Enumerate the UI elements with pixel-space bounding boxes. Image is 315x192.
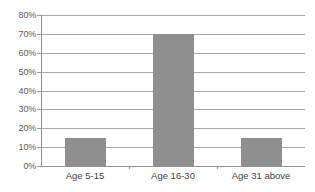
y-axis-tick-label: 60%: [0, 49, 36, 58]
bar: [153, 34, 194, 166]
x-axis-labels: Age 5-15Age 16-30Age 31 above: [41, 170, 305, 186]
x-axis-category-label: Age 31 above: [217, 170, 305, 182]
bar: [241, 138, 282, 166]
y-axis-tick-label: 30%: [0, 105, 36, 114]
y-axis-tick-label: 10%: [0, 143, 36, 152]
x-axis-separator-tick: [129, 166, 130, 169]
x-axis-category-label: Age 16-30: [129, 170, 217, 182]
x-axis-baseline: [41, 166, 305, 167]
y-axis-tick-label: 40%: [0, 87, 36, 96]
x-axis-category-label: Age 5-15: [41, 170, 129, 182]
x-axis-separator-tick: [217, 166, 218, 169]
y-axis-tick-label: 80%: [0, 11, 36, 20]
y-axis-tick-label: 20%: [0, 124, 36, 133]
y-axis-tick-label: 50%: [0, 68, 36, 77]
bar: [65, 138, 106, 166]
y-axis-labels: 0%10%20%30%40%50%60%70%80%: [0, 0, 36, 192]
y-axis-tick-label: 0%: [0, 162, 36, 171]
y-axis-tick-label: 70%: [0, 30, 36, 39]
bar-series: [41, 15, 305, 166]
bar-chart: 0%10%20%30%40%50%60%70%80% Age 5-15Age 1…: [0, 0, 315, 192]
